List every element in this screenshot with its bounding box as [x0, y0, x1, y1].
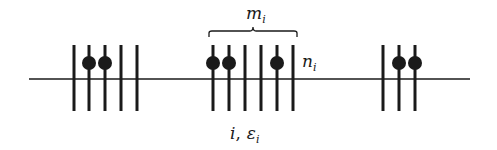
line-groups [74, 45, 422, 111]
line-group-center [206, 45, 293, 111]
label-n-i: ni [302, 51, 316, 74]
brace-bracket [209, 27, 297, 37]
filled-dot [98, 56, 112, 70]
filled-dot [408, 56, 422, 70]
filled-dot [82, 56, 96, 70]
filled-dot [392, 56, 406, 70]
label-m-i: mi [246, 3, 266, 26]
filled-dot [206, 56, 220, 70]
level-diagram: mi ni i,εi [0, 0, 497, 150]
label-i-epsilon-i: i,εi [230, 123, 260, 146]
filled-dot [270, 56, 284, 70]
line-group-right [383, 45, 422, 111]
diagram-canvas: mi ni i,εi [0, 0, 497, 150]
line-group-left [74, 45, 137, 111]
filled-dot [222, 56, 236, 70]
